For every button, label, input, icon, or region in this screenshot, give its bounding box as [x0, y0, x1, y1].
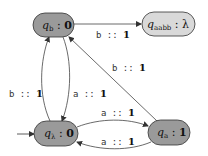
svg-text:qλ : 0: qλ : 0 [44, 127, 74, 141]
edge-qa-to-qlambda: a :: 1 [77, 136, 151, 149]
svg-text:b :: 1: b :: 1 [9, 88, 43, 99]
svg-text:qb : 0: qb : 0 [42, 19, 72, 33]
state-q-a: qa : 1 [148, 120, 190, 145]
svg-text:a :: 1: a :: 1 [73, 88, 107, 99]
automaton-diagram: b :: 1 b :: 1 a :: 1 b :: 1 a :: 1 a :: … [0, 0, 208, 156]
svg-text:qa : 1: qa : 1 [157, 126, 187, 140]
edge-qlambda-to-qa: a :: 1 [77, 107, 148, 127]
svg-text:b :: 1: b :: 1 [112, 62, 146, 73]
state-q-lambda: qλ : 0 [34, 121, 78, 146]
state-q-aabb: qaabb : λ [142, 12, 195, 36]
svg-text:a :: 1: a :: 1 [101, 136, 135, 147]
edge-qb-to-qaabb: b :: 1 [74, 24, 141, 40]
edge-qlambda-to-qb: b :: 1 [9, 37, 50, 121]
svg-text:a :: 1: a :: 1 [101, 107, 135, 118]
state-q-b: qb : 0 [33, 13, 74, 37]
svg-text:b :: 1: b :: 1 [96, 29, 130, 40]
